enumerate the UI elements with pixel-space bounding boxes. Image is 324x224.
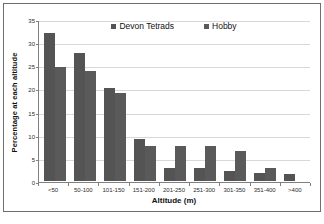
bar [265, 168, 276, 181]
bar [134, 139, 145, 181]
y-tick-label: 25 [28, 64, 35, 70]
x-tick-label: 151-200 [129, 187, 159, 193]
bar [74, 53, 85, 181]
y-tick-mark [36, 114, 39, 115]
y-tick-mark [36, 137, 39, 138]
y-tick-label: 0 [32, 180, 35, 186]
bar [55, 67, 66, 181]
y-tick-mark [36, 44, 39, 45]
bar-group [100, 21, 130, 181]
x-axis-ticks [38, 183, 310, 186]
y-tick-label: 30 [28, 41, 35, 47]
legend-label: Hobby [212, 22, 237, 31]
legend-label: Devon Tetrads [119, 22, 174, 31]
y-tick-mark [36, 90, 39, 91]
square-marker-icon [204, 24, 209, 29]
x-tick-label: 50-100 [68, 187, 98, 193]
x-tick-mark [38, 183, 39, 186]
x-tick-label: >400 [280, 187, 310, 193]
x-tick-mark [68, 183, 69, 186]
bar-group [40, 21, 70, 181]
bar [85, 71, 96, 181]
x-tick-mark [98, 183, 99, 186]
y-tick-label: 35 [28, 18, 35, 24]
bar [115, 93, 126, 181]
x-tick-mark [310, 183, 311, 186]
plot-area: 05101520253035 [38, 21, 310, 183]
legend-entry: Devon Tetrads [111, 22, 174, 31]
bar-group [280, 21, 310, 181]
y-axis-title: Percentage at each altitude [9, 21, 21, 183]
bar-group [190, 21, 220, 181]
y-tick-label: 5 [32, 157, 35, 163]
legend-entry: Hobby [204, 22, 237, 31]
y-tick-label: 20 [28, 87, 35, 93]
bar [145, 146, 156, 181]
x-tick-mark [280, 183, 281, 186]
bar [205, 146, 216, 181]
y-tick-label: 15 [28, 111, 35, 117]
x-tick-mark [189, 183, 190, 186]
chart-legend: Devon TetradsHobby [38, 22, 310, 31]
x-tick-label: 101-150 [98, 187, 128, 193]
bar [164, 168, 175, 181]
x-tick-label: 251-300 [189, 187, 219, 193]
y-tick-mark [36, 160, 39, 161]
x-axis-title: Altitude (m) [38, 196, 310, 205]
x-tick-mark [219, 183, 220, 186]
y-tick-mark [36, 67, 39, 68]
bar [194, 168, 205, 181]
y-tick-label: 10 [28, 134, 35, 140]
bar [175, 146, 186, 181]
x-tick-label: <50 [38, 187, 68, 193]
square-marker-icon [111, 24, 116, 29]
bar [104, 88, 115, 181]
bar [44, 33, 55, 181]
y-axis-title-label: Percentage at each altitude [11, 52, 20, 152]
bar [224, 171, 235, 181]
x-tick-mark [159, 183, 160, 186]
x-tick-label: 301-350 [219, 187, 249, 193]
bar [254, 173, 265, 181]
x-axis-tick-labels: <5050-100101-150151-200201-250251-300301… [38, 187, 310, 193]
bar-group [160, 21, 190, 181]
chart-figure: Percentage at each altitude 051015202530… [0, 0, 324, 224]
x-tick-mark [129, 183, 130, 186]
x-tick-mark [250, 183, 251, 186]
bar-groups [40, 21, 310, 181]
bar [284, 174, 295, 181]
bar [235, 151, 246, 181]
bar-group [250, 21, 280, 181]
x-tick-label: 351-400 [250, 187, 280, 193]
bar-group [220, 21, 250, 181]
x-tick-label: 201-250 [159, 187, 189, 193]
bar-group [130, 21, 160, 181]
bar-group [70, 21, 100, 181]
